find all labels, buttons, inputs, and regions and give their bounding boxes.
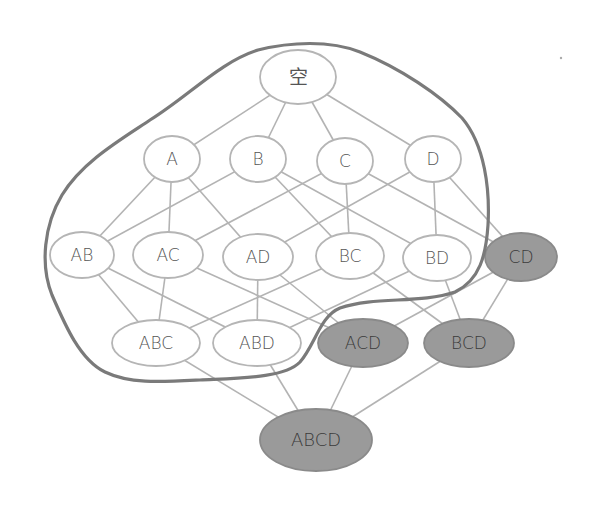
hasse-diagram: 空ABCDABACADBCBDCDABCABDACDBCDABCD	[0, 0, 595, 511]
node-ABCD: ABCD	[260, 409, 372, 471]
node-ACD: ACD	[318, 319, 408, 367]
node-ABC: ABC	[112, 320, 200, 366]
node-D: D	[405, 136, 461, 182]
node-label: AD	[246, 247, 271, 267]
node-label: ABC	[139, 333, 173, 353]
node-label: 空	[289, 66, 308, 88]
node-label: BCD	[451, 333, 487, 353]
node-label: A	[166, 149, 178, 169]
node-AB: AB	[50, 232, 114, 278]
node-BC: BC	[316, 233, 384, 279]
node-label: ABD	[239, 333, 275, 353]
node-BCD: BCD	[424, 319, 514, 367]
node-AC: AC	[133, 232, 203, 278]
speck-dot	[560, 57, 562, 59]
node-label: ACD	[345, 333, 381, 353]
node-label: BD	[425, 248, 449, 268]
node-label: D	[426, 149, 439, 169]
node-ABD: ABD	[213, 320, 301, 366]
node-B: B	[230, 136, 286, 182]
node-C: C	[317, 138, 373, 184]
node-A: A	[144, 136, 200, 182]
node-label: C	[339, 151, 351, 171]
node-label: BC	[339, 246, 362, 266]
node-label: B	[252, 149, 263, 169]
node-BD: BD	[403, 235, 471, 281]
node-label: AC	[156, 245, 179, 265]
node-AD: AD	[223, 234, 293, 280]
node-CD: CD	[485, 233, 557, 281]
node-label: CD	[509, 247, 534, 267]
node-empty: 空	[260, 50, 336, 104]
node-label: ABCD	[291, 429, 341, 450]
node-label: AB	[71, 245, 94, 265]
